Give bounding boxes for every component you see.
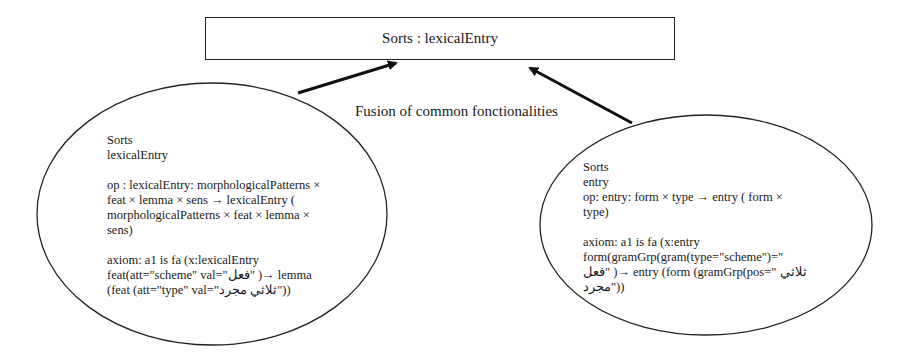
axiom-line: axiom: a1 is fa (x:lexicalEntry — [107, 253, 322, 268]
op-line: feat × lemma × sens → lexicalEntry ( — [107, 193, 322, 208]
sorts-heading: Sorts — [583, 160, 808, 175]
fusion-label: Fusion of common fonctionalities — [355, 103, 558, 120]
left-arrow — [298, 63, 396, 93]
axiom-line: (feat (att="type" val="ثلاثي مجرد")) — [107, 283, 322, 298]
sort-name: lexicalEntry — [107, 148, 322, 163]
op-line: op: entry: form × type → entry ( form × — [583, 190, 808, 205]
axiom-line: فعل" )→ entry (form (gramGrp(pos=" ثلاثي — [583, 265, 808, 280]
sorts-lexical-entry-box: Sorts : lexicalEntry — [205, 17, 675, 60]
axiom-line: feat(att="scheme" val="فعل" )→ lemma — [107, 268, 322, 283]
axiom-line: مجرد")) — [583, 280, 808, 295]
op-line: sens) — [107, 223, 322, 238]
op-line: op : lexicalEntry: morphologicalPatterns… — [107, 178, 322, 193]
axiom-line: form(gramGrp(gram(type="scheme")=" — [583, 250, 808, 265]
axiom-line: axiom: a1 is fa (x:entry — [583, 235, 808, 250]
sorts-heading: Sorts — [107, 133, 322, 148]
top-box-label: Sorts : lexicalEntry — [382, 30, 498, 47]
op-line: morphologicalPatterns × feat × lemma × — [107, 208, 322, 223]
op-line: type) — [583, 205, 808, 220]
right-node-text: Sorts entry op: entry: form × type → ent… — [583, 160, 808, 295]
sort-name: entry — [583, 175, 808, 190]
left-node-text: Sorts lexicalEntry op : lexicalEntry: mo… — [107, 133, 322, 298]
